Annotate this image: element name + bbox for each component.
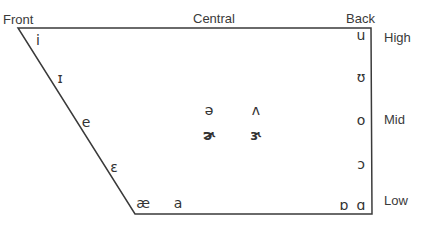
vowel-close-back-rounded: u xyxy=(357,28,366,42)
vowel-near-close-back: ʊ xyxy=(357,70,366,84)
vowel-open-mid-front: ɛ xyxy=(110,160,118,174)
vowel-close-mid-front: e xyxy=(82,115,91,129)
vowel-open-mid-back: ɔ xyxy=(357,157,365,171)
axis-label-mid: Mid xyxy=(384,113,405,126)
vowel-open-front: a xyxy=(174,196,183,210)
vowel-schwa: ə xyxy=(205,103,214,117)
vowel-near-open-front: æ xyxy=(136,196,150,210)
vowel-close-mid-back: o xyxy=(357,113,366,127)
vowel-open-mid-back-unrounded: ʌ xyxy=(252,103,260,117)
vowel-open-back-unrounded: ɑ xyxy=(357,198,366,212)
vowel-near-close-front: ɪ xyxy=(57,71,62,85)
axis-label-front: Front xyxy=(3,13,33,26)
axis-label-central: Central xyxy=(193,12,235,25)
axis-label-high: High xyxy=(384,31,411,44)
vowel-close-front-unrounded: i xyxy=(36,33,40,47)
vowel-r-colored-open-mid-central: ɝ xyxy=(250,128,261,142)
vowel-r-colored-schwa: ɚ xyxy=(203,128,215,142)
vowel-open-back-rounded: ɒ xyxy=(340,198,349,212)
axis-label-low: Low xyxy=(384,194,408,207)
axis-label-back: Back xyxy=(346,12,375,25)
